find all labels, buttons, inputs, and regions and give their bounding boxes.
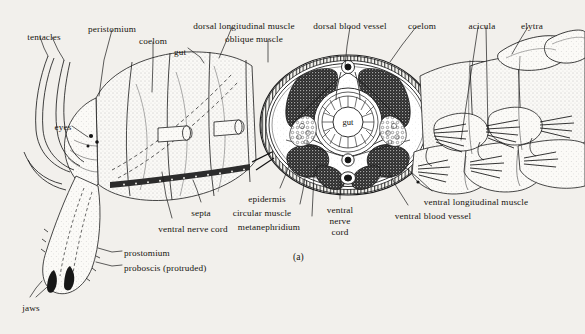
label-epidermis: epidermis xyxy=(248,194,286,204)
label-coelom-right: coelom xyxy=(408,21,436,31)
label-proboscis-protruded: proboscis (protruded) xyxy=(124,263,207,273)
label-gut-left: gut xyxy=(174,47,186,57)
ventral-nerve-cord-section xyxy=(341,172,356,184)
ventral-blood-vessel-section xyxy=(342,154,354,166)
anatomy-illustration xyxy=(0,0,585,334)
label-prostomium: prostomium xyxy=(124,248,170,258)
label-ventral-nerve-cord-c: cord xyxy=(332,227,349,237)
label-metanephridium: metanephridium xyxy=(238,222,300,232)
label-septa: septa xyxy=(191,208,211,218)
label-dorsal-longitudinal-muscle: dorsal longitudinal muscle xyxy=(193,21,294,31)
label-oblique-muscle: oblique muscle xyxy=(225,34,283,44)
label-ventral-nerve-cord-left: ventral nerve cord xyxy=(158,224,228,234)
label-jaws: jaws xyxy=(22,303,39,313)
gut-section-label: gut xyxy=(343,117,354,127)
figure-caption: (a) xyxy=(293,252,304,262)
label-ventral-nerve-cord-a: ventral xyxy=(327,205,354,215)
label-tentacles: tentacles xyxy=(27,32,61,42)
label-ventral-longitudinal-muscle: ventral longitudinal muscle xyxy=(424,197,529,207)
anatomy-figure: gut (a) tentaclesperistomiumcoelomgutdor… xyxy=(0,0,585,334)
label-ventral-nerve-cord-b: nerve xyxy=(329,216,350,226)
label-peristomium: peristomium xyxy=(88,24,136,34)
label-eyes: eyes xyxy=(55,122,72,132)
label-circular-muscle: circular muscle xyxy=(233,208,292,218)
label-coelom-left: coelom xyxy=(139,36,167,46)
label-elytra: elytra xyxy=(521,21,543,31)
label-acicula: acicula xyxy=(468,21,495,31)
label-ventral-blood-vessel: ventral blood vessel xyxy=(395,211,471,221)
label-dorsal-blood-vessel: dorsal blood vessel xyxy=(313,21,386,31)
